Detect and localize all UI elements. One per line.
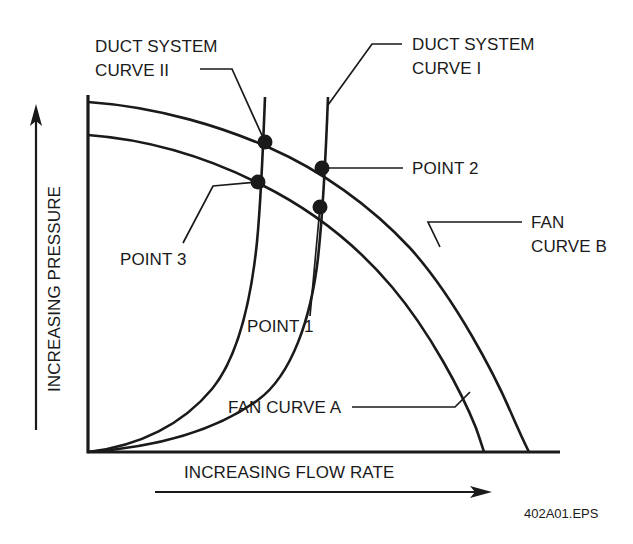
duct-system-curve-1-label-line1: DUCT SYSTEM	[412, 35, 535, 54]
leader-fan-curve-b	[428, 222, 522, 247]
duct-system-curve-2-label-line1: DUCT SYSTEM	[95, 37, 218, 56]
point-1-label: POINT 1	[247, 317, 314, 336]
leader-duct-system-curve-2	[200, 69, 265, 142]
figure-caption: 402A01.EPS	[524, 506, 599, 521]
leader-fan-curve-a	[352, 392, 470, 407]
fan-curve-a-label: FAN CURVE A	[228, 398, 342, 417]
figure-canvas: INCREASING PRESSURE INCREASING FLOW RATE…	[0, 0, 633, 544]
x-axis-label: INCREASING FLOW RATE	[184, 463, 394, 482]
point-3-label: POINT 3	[120, 250, 187, 269]
leader-point-3	[183, 182, 258, 243]
duct-system-curve-2-label-line2: CURVE II	[95, 61, 169, 80]
fan-curve-b-label-line1: FAN	[531, 213, 564, 232]
y-axis-label: INCREASING PRESSURE	[45, 186, 64, 392]
y-axis-arrow	[30, 104, 42, 430]
point-2-label: POINT 2	[412, 159, 479, 178]
x-axis-arrow	[155, 486, 492, 498]
leader-duct-system-curve-1	[328, 44, 402, 105]
fan-curve-diagram: INCREASING PRESSURE INCREASING FLOW RATE…	[0, 0, 633, 544]
fan-curve-b-label-line2: CURVE B	[531, 237, 607, 256]
duct-system-curve-1-label-line2: CURVE I	[412, 59, 481, 78]
